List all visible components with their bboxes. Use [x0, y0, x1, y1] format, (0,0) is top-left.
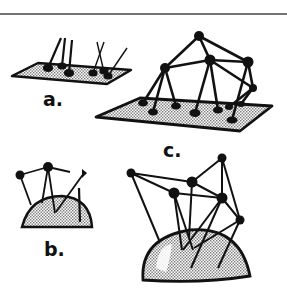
panel-c-plate — [96, 98, 272, 131]
panel-b-label: b. — [44, 238, 65, 260]
panel-a-label: a. — [43, 88, 63, 110]
panel-c-plate-structure: c. — [96, 31, 272, 161]
panel-b: b. — [16, 162, 93, 260]
panel-c-label: c. — [163, 139, 181, 161]
panel-c-dome-structure — [127, 154, 251, 282]
figure-canvas: a. — [0, 0, 287, 288]
panel-a: a. — [12, 38, 131, 110]
